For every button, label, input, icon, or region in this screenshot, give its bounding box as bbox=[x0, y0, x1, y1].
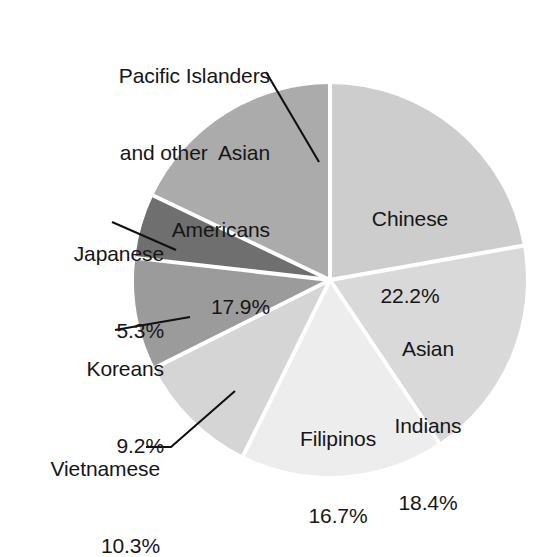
slice-label-filipinos: Filipinos 16.7% bbox=[268, 375, 408, 557]
label-line: Vietnamese bbox=[0, 456, 160, 482]
label-value: 10.3% bbox=[0, 533, 160, 557]
label-line: Chinese bbox=[348, 206, 472, 232]
label-line: Pacific Islanders bbox=[34, 63, 270, 89]
label-line: Filipinos bbox=[268, 426, 408, 452]
label-line: Asian bbox=[366, 336, 490, 362]
label-line: and other Asian bbox=[34, 140, 270, 166]
slice-label-vietnamese: Vietnamese 10.3% bbox=[0, 405, 160, 557]
label-line: Japanese bbox=[4, 241, 164, 267]
label-line: Koreans bbox=[4, 356, 164, 382]
label-value: 16.7% bbox=[268, 503, 408, 529]
